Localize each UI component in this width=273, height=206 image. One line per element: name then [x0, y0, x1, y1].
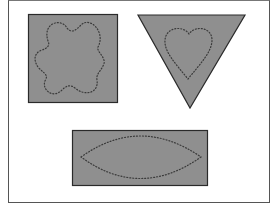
shapes-diagram — [0, 0, 273, 206]
square-shape — [29, 15, 118, 103]
triangle-shape — [138, 15, 245, 108]
rectangle-shape — [73, 131, 208, 186]
